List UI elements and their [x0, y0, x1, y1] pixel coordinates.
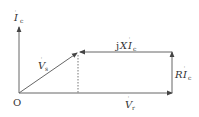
svg-text:c: c [133, 45, 137, 52]
phasor-diagram: I c · O V s · j X I c · R I c · V r · [0, 0, 199, 117]
ric-label: R I c · [174, 63, 192, 81]
svg-text:I: I [13, 12, 19, 23]
svg-text:r: r [132, 104, 135, 111]
vs-vector-arrow [19, 53, 77, 93]
vs-label: V s · [38, 54, 48, 72]
svg-text:j: j [115, 40, 119, 51]
svg-text:R: R [174, 69, 183, 80]
svg-text:·: · [184, 63, 186, 70]
svg-text:·: · [15, 7, 17, 14]
svg-text:·: · [41, 54, 43, 61]
origin-label: O [13, 97, 21, 108]
vr-label: V r · [125, 93, 135, 111]
svg-text:·: · [129, 34, 131, 41]
current-axis-label: I c · [13, 7, 24, 25]
svg-text:s: s [45, 65, 48, 72]
svg-text:c: c [20, 17, 24, 24]
svg-text:c: c [188, 74, 192, 81]
svg-text:·: · [128, 93, 130, 100]
svg-text:X: X [119, 40, 128, 51]
jxic-label: j X I c · [115, 34, 137, 52]
